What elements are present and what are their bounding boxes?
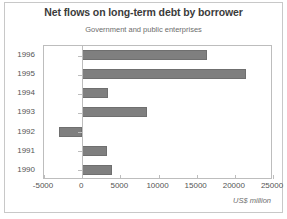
x-tick-mark bbox=[235, 175, 236, 179]
x-tick-label-20000: 20000 bbox=[223, 181, 245, 190]
x-tick-mark bbox=[44, 175, 45, 179]
x-tick-label-5000: 5000 bbox=[110, 181, 128, 190]
x-tick-label--5000: -5000 bbox=[33, 181, 53, 190]
bar-1995[interactable] bbox=[82, 69, 246, 79]
y-tick-mark bbox=[78, 151, 82, 152]
y-tick-label-1993: 1993 bbox=[17, 102, 35, 121]
x-tick-label-25000: 25000 bbox=[261, 181, 283, 190]
y-tick-mark bbox=[78, 94, 82, 95]
bar-1990[interactable] bbox=[82, 165, 112, 175]
chart-title: Net flows on long-term debt by borrower bbox=[0, 6, 287, 18]
x-axis-unit-label: US$ million bbox=[233, 196, 271, 205]
chart-subtitle: Government and public enterprises bbox=[0, 25, 287, 34]
y-axis-labels: 1996199519941993199219911990 bbox=[0, 45, 40, 179]
plot-area bbox=[43, 45, 272, 179]
x-tick-label-15000: 15000 bbox=[185, 181, 207, 190]
y-tick-mark bbox=[78, 56, 82, 57]
x-tick-mark bbox=[273, 175, 274, 179]
y-tick-mark bbox=[78, 75, 82, 76]
bar-1996[interactable] bbox=[82, 50, 206, 60]
x-axis-labels: -50000500010000150002000025000 bbox=[0, 181, 287, 193]
x-tick-label-10000: 10000 bbox=[146, 181, 168, 190]
y-tick-mark bbox=[78, 113, 82, 114]
y-tick-label-1991: 1991 bbox=[17, 141, 35, 160]
zero-axis-line bbox=[82, 46, 83, 178]
y-tick-label-1996: 1996 bbox=[17, 45, 35, 64]
x-tick-mark bbox=[197, 175, 198, 179]
y-tick-label-1995: 1995 bbox=[17, 64, 35, 83]
x-tick-label-0: 0 bbox=[79, 181, 83, 190]
bars-layer bbox=[44, 46, 271, 178]
y-tick-label-1990: 1990 bbox=[17, 160, 35, 179]
x-tick-mark bbox=[159, 175, 160, 179]
y-tick-label-1994: 1994 bbox=[17, 83, 35, 102]
x-tick-mark bbox=[82, 175, 83, 179]
chart-figure: Net flows on long-term debt by borrower … bbox=[0, 0, 287, 219]
bar-1993[interactable] bbox=[82, 107, 147, 117]
y-tick-label-1992: 1992 bbox=[17, 122, 35, 141]
x-tick-mark bbox=[120, 175, 121, 179]
y-tick-mark bbox=[78, 132, 82, 133]
bar-1994[interactable] bbox=[82, 88, 108, 98]
y-tick-mark bbox=[78, 170, 82, 171]
bar-1991[interactable] bbox=[82, 146, 107, 156]
